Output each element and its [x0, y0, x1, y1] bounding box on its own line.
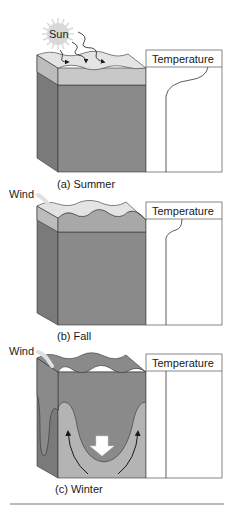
caption-fall: (b) Fall: [57, 330, 91, 342]
temperature-label: Temperature: [152, 205, 214, 217]
warm-surface-layer: [58, 68, 146, 85]
panel-fall: Wind Temperature (b) Fall: [9, 188, 222, 342]
sun-label: Sun: [49, 28, 69, 40]
deep-water-layer: [58, 85, 146, 172]
caption-summer: (a) Summer: [57, 178, 115, 190]
panel-winter: Wind Temperature (c) Winter: [9, 345, 222, 495]
lake-seasonal-stratification-diagram: Sun Temperature (a) Summer Wind Temperat…: [0, 0, 234, 510]
temperature-graph-frame: [146, 354, 222, 478]
temperature-graph-frame: [146, 202, 222, 325]
wind-label: Wind: [9, 345, 34, 357]
temperature-label: Temperature: [152, 357, 214, 369]
panel-summer: Sun Temperature (a) Summer: [37, 18, 222, 190]
caption-winter: (c) Winter: [55, 483, 103, 495]
temperature-graph-frame: [146, 50, 222, 172]
deep-water-layer: [58, 232, 146, 325]
wind-label: Wind: [9, 188, 34, 200]
temperature-label: Temperature: [152, 53, 214, 65]
